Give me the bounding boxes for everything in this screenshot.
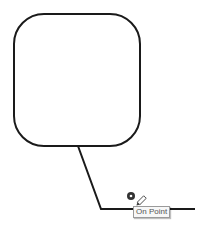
drawing-canvas[interactable] <box>0 0 207 228</box>
leader-line[interactable] <box>78 146 195 209</box>
callout-box[interactable] <box>14 14 140 146</box>
snap-point-icon <box>127 192 135 200</box>
snap-tooltip: On Point <box>133 206 170 218</box>
